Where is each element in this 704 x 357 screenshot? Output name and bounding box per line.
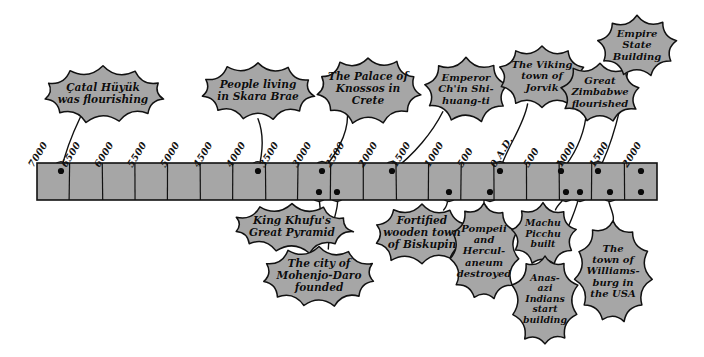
- bubbles-below-layer: [236, 203, 652, 344]
- event-dot[interactable]: [389, 168, 395, 174]
- event-dot[interactable]: [563, 189, 569, 195]
- event-dot[interactable]: [319, 168, 325, 174]
- event-dot[interactable]: [446, 189, 452, 195]
- event-dot[interactable]: [334, 189, 340, 195]
- timeline-artwork: [0, 0, 704, 357]
- event-bubble[interactable]: [512, 256, 578, 344]
- event-bubble[interactable]: [512, 203, 576, 264]
- bubbles-above-layer: [45, 15, 677, 123]
- event-bubble[interactable]: [45, 66, 164, 123]
- event-dot[interactable]: [607, 189, 613, 195]
- event-bubble[interactable]: [575, 221, 653, 322]
- timeline-bar: [37, 163, 657, 200]
- event-dot[interactable]: [255, 168, 261, 174]
- event-dot[interactable]: [638, 168, 644, 174]
- timeline-segment-divider: [69, 163, 70, 200]
- bar-layer: [37, 163, 657, 200]
- event-dot[interactable]: [487, 189, 493, 195]
- event-bubble[interactable]: [264, 247, 374, 307]
- event-dot[interactable]: [497, 168, 503, 174]
- event-bubble[interactable]: [317, 58, 421, 123]
- event-bubble[interactable]: [450, 203, 519, 299]
- timeline-figure: 7000650060005500500045004000350030002500…: [0, 0, 704, 357]
- event-dot[interactable]: [316, 189, 322, 195]
- event-dot[interactable]: [638, 189, 644, 195]
- event-dot[interactable]: [577, 189, 583, 195]
- event-dot[interactable]: [58, 168, 64, 174]
- event-bubble[interactable]: [598, 15, 677, 75]
- event-dot[interactable]: [558, 168, 564, 174]
- event-bubble[interactable]: [425, 57, 508, 121]
- event-bubble[interactable]: [202, 63, 314, 119]
